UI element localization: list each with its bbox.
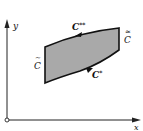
y-axis-label: y bbox=[12, 21, 19, 31]
left-edge-label: C bbox=[34, 61, 41, 71]
shaded-region bbox=[45, 28, 119, 83]
upper-curve-label: C** bbox=[72, 21, 85, 32]
y-axis-arrow-icon bbox=[5, 19, 10, 28]
right-edge-label: C bbox=[124, 35, 131, 45]
left-edge-tilde-icon: ~ bbox=[35, 54, 41, 62]
right-edge-double-tilde-icon: ≈ bbox=[125, 28, 131, 36]
lower-curve-label: C* bbox=[92, 69, 102, 80]
origin-marker bbox=[5, 118, 9, 122]
x-axis-label: x bbox=[134, 123, 139, 131]
x-axis-arrow-icon bbox=[132, 118, 141, 123]
diagram: y x C** C* C ~ C ≈ bbox=[0, 0, 143, 131]
diagram-canvas: y x C** C* C ~ C ≈ bbox=[0, 0, 143, 131]
